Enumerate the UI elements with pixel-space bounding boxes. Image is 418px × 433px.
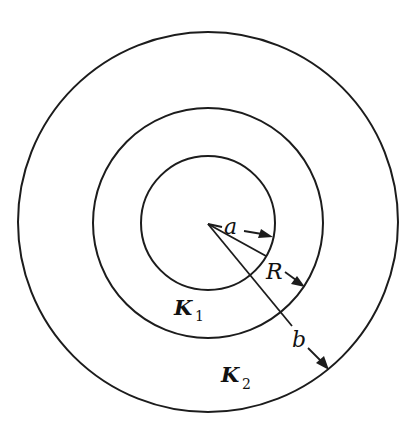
label-K2-sub: 2	[242, 376, 251, 392]
arrowhead-icon	[258, 229, 273, 238]
outer-circle	[18, 32, 398, 412]
label-b: b	[292, 327, 306, 352]
radius-a-line-end	[244, 231, 262, 234]
radius-b: b	[208, 224, 329, 370]
label-K1-sub: 1	[195, 308, 204, 324]
middle-circle	[93, 108, 323, 338]
label-K2-base: K	[220, 362, 240, 387]
region-label-K1: K 1	[173, 295, 204, 324]
inner-circle	[141, 156, 275, 290]
label-R: R	[265, 259, 283, 284]
radius-R-line-end	[285, 272, 296, 280]
concentric-circles-diagram: a R b K 1 K 2	[0, 0, 418, 433]
region-label-K2: K 2	[220, 362, 251, 392]
label-K1-base: K	[173, 295, 193, 320]
label-a: a	[224, 214, 237, 239]
